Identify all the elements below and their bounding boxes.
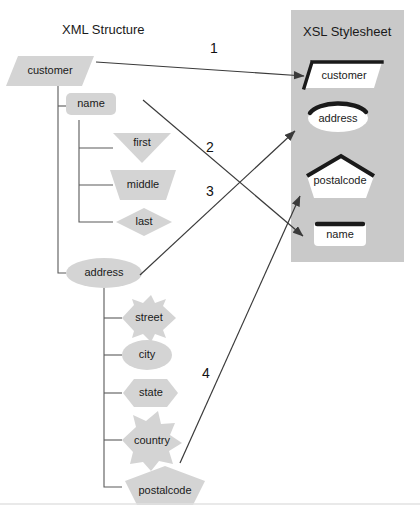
xml-node-customer-shape	[6, 56, 94, 86]
mapping-arrow-4	[180, 196, 300, 463]
xml-node-state-shape	[123, 379, 178, 407]
mapping-arrow-2	[143, 100, 303, 236]
mapping-number-1: 1	[210, 40, 218, 56]
xml-node-country-shape	[122, 411, 182, 471]
xml-structure-title: XML Structure	[62, 22, 145, 37]
mapping-arrow-1	[96, 62, 304, 76]
mapping-number-2: 2	[206, 139, 214, 155]
diagram-canvas: XML Structure XSL Stylesheet customer na…	[0, 0, 420, 517]
mapping-arrow-3	[140, 131, 295, 275]
xml-node-middle-shape	[110, 170, 176, 200]
xsl-node-customer-shape	[304, 62, 382, 88]
xml-node-address-shape	[66, 258, 142, 288]
mapping-number-4: 4	[202, 365, 210, 381]
xml-node-name-shape	[66, 93, 116, 115]
diagram-shapes	[0, 0, 420, 517]
mapping-number-3: 3	[206, 183, 214, 199]
xml-node-last-shape	[116, 208, 172, 236]
xml-node-postalcode-shape	[125, 466, 205, 505]
xsl-stylesheet-title: XSL Stylesheet	[303, 24, 391, 39]
xml-node-city-shape	[122, 340, 172, 370]
xml-node-first-shape	[113, 133, 171, 163]
xml-node-street-shape	[122, 295, 176, 342]
